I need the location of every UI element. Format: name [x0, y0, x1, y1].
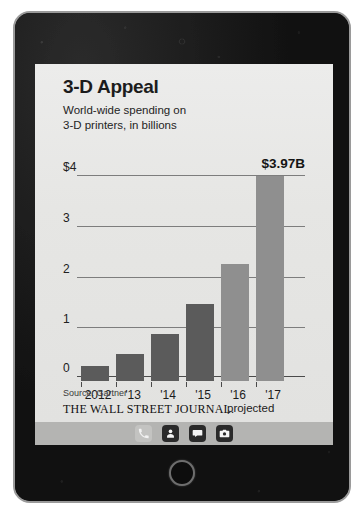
- app-dock: [35, 422, 333, 445]
- bar-2015[interactable]: [186, 304, 214, 381]
- page-root: 3-D Appeal World-wide spending on 3-D pr…: [0, 0, 364, 514]
- x-tick-mark-5: [256, 382, 257, 387]
- bar-2014[interactable]: [151, 334, 179, 381]
- y-tick-label-2: 2: [63, 263, 70, 275]
- tablet-device: 3-D Appeal World-wide spending on 3-D pr…: [13, 11, 351, 503]
- y-tick-label-0: 0: [63, 362, 70, 374]
- bar-group: $3.97B: [81, 175, 305, 381]
- x-label-2015: '15: [186, 388, 220, 402]
- camera-icon[interactable]: [216, 425, 233, 442]
- x-tick-mark-4: [221, 382, 222, 387]
- bar-2012[interactable]: [81, 366, 109, 381]
- infographic: 3-D Appeal World-wide spending on 3-D pr…: [35, 64, 333, 422]
- bar-2013[interactable]: [116, 354, 144, 381]
- messages-icon[interactable]: [189, 425, 206, 442]
- camera-dot-icon: [180, 39, 185, 44]
- home-button[interactable]: [169, 460, 195, 486]
- y-tick-label-4: $4: [63, 161, 76, 173]
- phone-icon[interactable]: [135, 425, 152, 442]
- value-callout: $3.97B: [261, 156, 305, 171]
- x-tick-mark-0: [81, 382, 82, 387]
- chart-source: Source: Gartner: [63, 388, 127, 398]
- x-label-2016: '16: [221, 388, 255, 402]
- bar-2016[interactable]: [221, 264, 249, 381]
- contacts-icon[interactable]: [162, 425, 179, 442]
- x-label-2017: '17: [256, 388, 290, 402]
- publisher-logo: THE WALL STREET JOURNAL.: [63, 402, 234, 417]
- chart-subtitle-line-1: World-wide spending on: [63, 103, 186, 118]
- y-tick-label-3: 3: [63, 212, 70, 224]
- chart-title: 3-D Appeal: [63, 76, 159, 98]
- y-tick-label-1: 1: [63, 313, 70, 325]
- chart-subtitle: World-wide spending on 3-D printers, in …: [63, 103, 186, 132]
- tablet-screen: 3-D Appeal World-wide spending on 3-D pr…: [35, 64, 333, 422]
- chart-plot-area: $4 3 2 1 0 $3.97B: [63, 169, 305, 382]
- bar-2017[interactable]: [256, 176, 284, 381]
- x-tick-mark-2: [151, 382, 152, 387]
- x-label-2014: '14: [151, 388, 185, 402]
- chart-subtitle-line-2: 3-D printers, in billions: [63, 118, 186, 133]
- x-tick-mark-1: [116, 382, 117, 387]
- x-tick-mark-3: [186, 382, 187, 387]
